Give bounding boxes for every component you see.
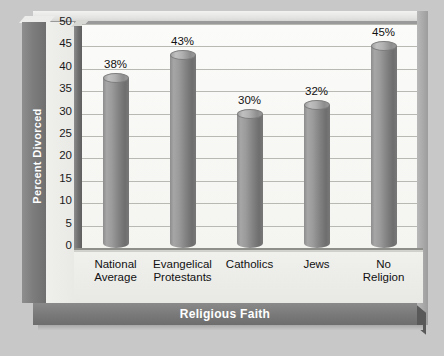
- bar: 45%: [371, 46, 397, 248]
- category-label-line: No: [342, 258, 426, 271]
- y-axis-title-band: Percent Divorced: [22, 22, 46, 303]
- y-axis-tick-label: 40: [48, 61, 72, 73]
- y-axis-title: Percent Divorced: [31, 26, 43, 286]
- y-axis-tick-column: 50454035302520151050: [46, 22, 74, 303]
- y-axis-tick-label: 15: [48, 173, 72, 185]
- y-axis-tick-label: 30: [48, 106, 72, 118]
- category-label-line: Protestants: [141, 271, 225, 284]
- y-axis-tick-label: 35: [48, 83, 72, 95]
- bar: 30%: [237, 114, 263, 248]
- bar-value-label: 30%: [238, 94, 261, 106]
- y-axis-wall: [74, 26, 82, 252]
- category-label-line: Religion: [342, 271, 426, 284]
- plot-floor-front-edge: [74, 248, 423, 250]
- y-axis-tick-label: 45: [48, 38, 72, 50]
- y-axis-tick-label: 25: [48, 128, 72, 140]
- x-axis-title: Religious Faith: [180, 307, 271, 321]
- bar-value-label: 43%: [171, 35, 194, 47]
- gridline: [82, 46, 417, 47]
- y-axis-tick-label: 50: [48, 16, 72, 28]
- y-axis-tick-label: 0: [48, 240, 72, 252]
- bar-value-label: 38%: [104, 58, 127, 70]
- bar: 32%: [304, 105, 330, 248]
- y-axis-tick-label: 5: [48, 218, 72, 230]
- y-axis-tick-label: 10: [48, 195, 72, 207]
- gridline: [82, 24, 417, 25]
- bar-top-ellipse: [304, 100, 330, 110]
- bar-top-ellipse: [237, 109, 263, 119]
- bar-value-label: 32%: [305, 85, 328, 97]
- gridline: [82, 91, 417, 92]
- frame-bottom-shadow: [38, 325, 423, 330]
- y-axis-tick-label: 20: [48, 150, 72, 162]
- x-axis-title-band: Religious Faith: [33, 303, 417, 325]
- bar: 38%: [103, 78, 129, 248]
- bar-top-ellipse: [103, 73, 129, 83]
- bar-top-ellipse: [170, 50, 196, 60]
- plot-area: 38%43%30%32%45%: [82, 24, 417, 248]
- chart-figure: Percent Divorced 50454035302520151050 38…: [0, 0, 444, 356]
- bar-value-label: 45%: [372, 26, 395, 38]
- bar-top-ellipse: [371, 41, 397, 51]
- gridline: [82, 69, 417, 70]
- x-axis-category-label: NoReligion: [342, 258, 426, 284]
- bar: 43%: [170, 55, 196, 248]
